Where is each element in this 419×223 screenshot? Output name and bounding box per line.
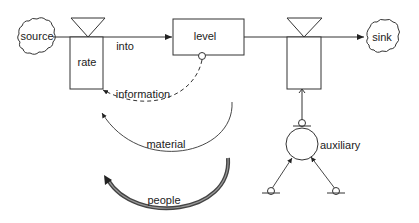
auxiliary-circle	[286, 128, 318, 160]
auxiliary-label: auxiliary	[320, 139, 361, 151]
link-line	[271, 158, 292, 190]
outflow-rate-box	[287, 37, 321, 89]
level-stock[interactable]: level	[173, 19, 244, 60]
information-label: information	[116, 88, 170, 100]
source-label: source	[20, 30, 53, 42]
rate-valve[interactable]: rate	[70, 18, 105, 89]
people-label: people	[147, 194, 180, 206]
level-connector-circle-icon	[199, 53, 206, 60]
valve-triangle-icon	[71, 18, 105, 37]
outflow-valve[interactable]	[287, 18, 322, 89]
sink-cloud[interactable]: sink	[367, 19, 400, 52]
source-cloud[interactable]: source	[18, 18, 56, 55]
valve-triangle-icon	[287, 18, 322, 37]
rate-label: rate	[78, 56, 97, 68]
auxiliary-input-left[interactable]	[262, 158, 292, 195]
link-line	[311, 157, 336, 190]
auxiliary-input-right[interactable]	[311, 157, 345, 195]
material-label: material	[146, 138, 185, 150]
sink-label: sink	[372, 31, 392, 43]
into-label: into	[116, 40, 134, 52]
level-label: level	[194, 30, 217, 42]
connector-circle-icon	[299, 120, 306, 127]
stock-flow-diagram: source into rate level sink information …	[0, 0, 419, 223]
auxiliary-node[interactable]: auxiliary	[286, 89, 361, 160]
